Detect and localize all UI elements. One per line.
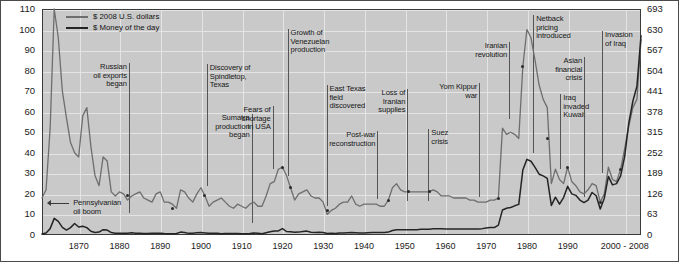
series-marker [566,166,569,169]
series-marker [497,197,500,200]
series-marker [326,209,329,212]
oil-price-chart: $ 2008 U.S. dollars $ Money of the day 0… [0,0,679,262]
series-marker [171,207,174,210]
series-marker [546,137,549,140]
series-line-2008-dollars [42,9,641,214]
series-line-money-of-the-day [42,36,641,234]
series-marker [619,168,622,171]
series-marker [281,166,284,169]
series-marker [387,199,390,202]
series-layer [1,1,679,262]
series-marker [599,201,602,204]
